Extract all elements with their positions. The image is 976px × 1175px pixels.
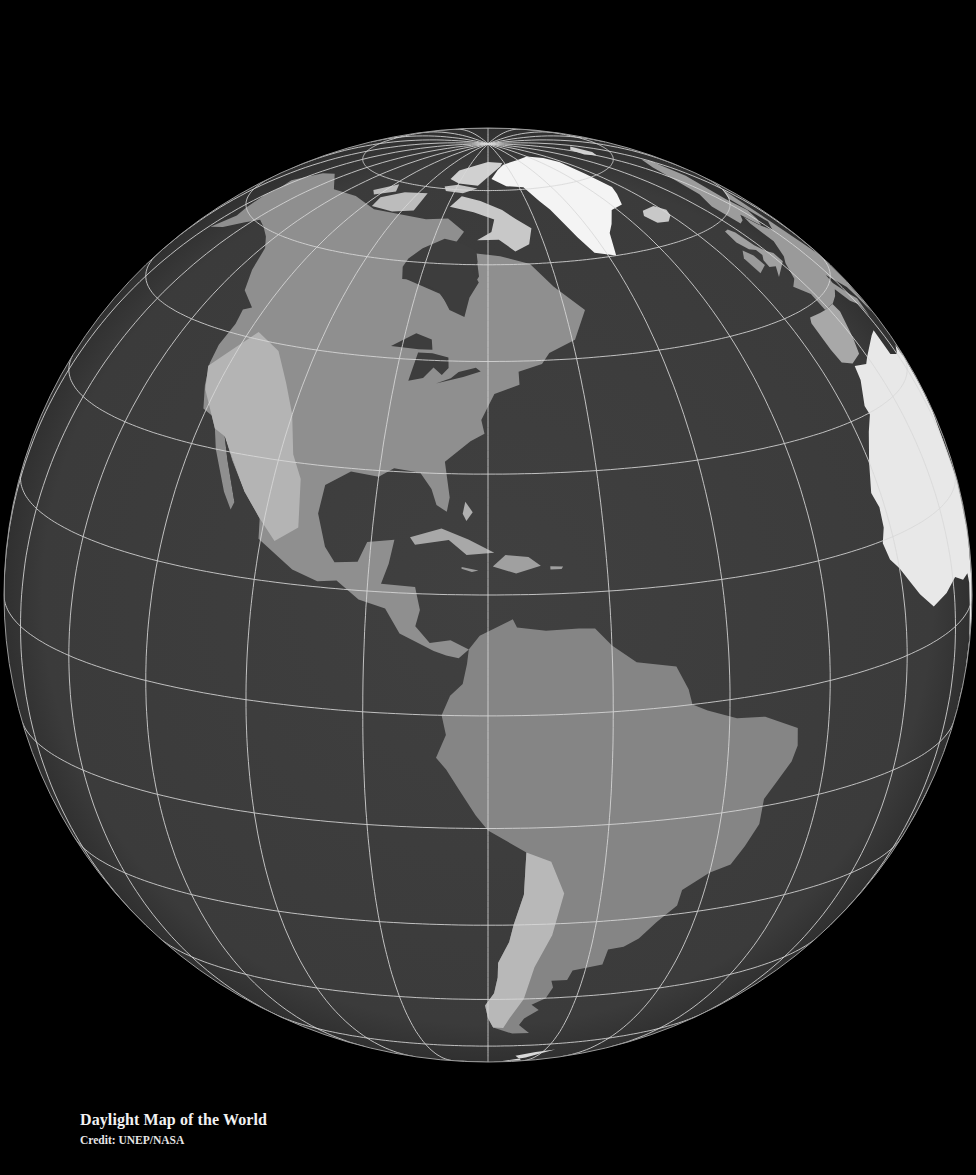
puerto-rico [550, 566, 563, 569]
map-caption: Daylight Map of the World Credit: UNEP/N… [80, 1110, 267, 1146]
map-title: Daylight Map of the World [80, 1110, 267, 1130]
world-map-globe [0, 0, 976, 1175]
map-credit: Credit: UNEP/NASA [80, 1134, 267, 1146]
